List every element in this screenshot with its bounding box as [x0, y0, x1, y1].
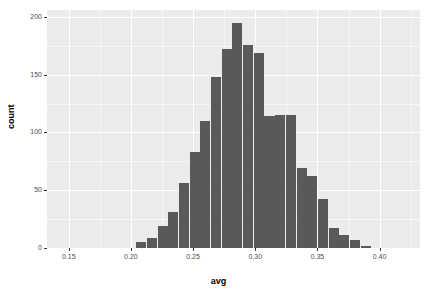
histogram-bar — [136, 242, 146, 248]
y-tick-label: 150 — [16, 71, 42, 79]
histogram-bars — [47, 10, 420, 248]
histogram-bar — [222, 49, 232, 248]
y-tick-label: 200 — [16, 13, 42, 21]
histogram-bar — [179, 183, 189, 248]
histogram-bar — [286, 115, 296, 248]
histogram-bar — [297, 168, 307, 248]
histogram-bar — [264, 116, 274, 248]
plot-panel — [47, 10, 420, 248]
y-tick-mark — [44, 132, 47, 133]
histogram-bar — [329, 228, 339, 248]
x-tick-label: 0.35 — [302, 253, 332, 261]
x-tick-mark — [380, 248, 381, 251]
x-tick-mark — [317, 248, 318, 251]
histogram-bar — [232, 23, 242, 248]
x-tick-label: 0.15 — [54, 253, 84, 261]
y-tick-label: 0 — [16, 244, 42, 252]
x-tick-mark — [69, 248, 70, 251]
histogram-bar — [168, 212, 178, 248]
x-tick-label: 0.20 — [116, 253, 146, 261]
histogram-bar — [350, 240, 360, 248]
x-axis-title: avg — [0, 276, 437, 286]
histogram-bar — [147, 238, 157, 248]
histogram-bar — [211, 77, 221, 248]
x-tick-label: 0.30 — [240, 253, 270, 261]
x-tick-label: 0.40 — [365, 253, 395, 261]
y-tick-mark — [44, 17, 47, 18]
y-tick-label: 50 — [16, 186, 42, 194]
histogram-bar — [243, 45, 253, 248]
histogram-bar — [200, 121, 210, 248]
x-tick-mark — [131, 248, 132, 251]
x-tick-mark — [193, 248, 194, 251]
y-tick-mark — [44, 190, 47, 191]
histogram-bar — [275, 115, 285, 248]
histogram-bar — [339, 235, 349, 248]
histogram-plot: 050100150200 0.150.200.250.300.350.40 co… — [0, 0, 437, 300]
histogram-bar — [318, 199, 328, 248]
y-tick-label: 100 — [16, 128, 42, 136]
x-tick-mark — [255, 248, 256, 251]
y-tick-mark — [44, 75, 47, 76]
histogram-bar — [158, 226, 168, 248]
histogram-bar — [254, 53, 264, 248]
x-tick-label: 0.25 — [178, 253, 208, 261]
histogram-bar — [190, 152, 200, 248]
y-axis-title: count — [6, 105, 16, 130]
y-tick-mark — [44, 248, 47, 249]
histogram-bar — [307, 176, 317, 248]
histogram-bar — [361, 246, 371, 248]
